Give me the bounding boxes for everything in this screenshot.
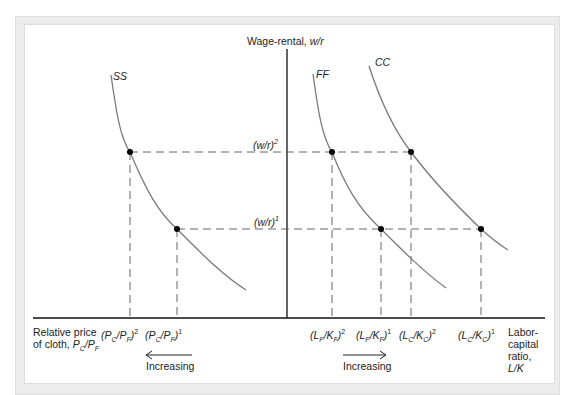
x-left-label-text: of cloth,	[33, 338, 73, 350]
x-right-label: Labor- capital ratio, L/K	[508, 326, 538, 374]
point-ss-w2	[127, 149, 133, 155]
x-right-label-line4: L/K	[508, 362, 538, 374]
y-axis-title: Wage-rental, w/r	[247, 35, 324, 47]
ff-label: FF	[316, 68, 329, 80]
x-left-sub-f: F	[95, 345, 99, 352]
tick-text: /K	[472, 329, 482, 341]
right-increasing-label: Increasing	[343, 360, 391, 372]
tick-text: (L	[458, 329, 467, 341]
tick-text: (L	[310, 329, 319, 341]
equilibrium-points	[127, 149, 484, 232]
x-right-label-line1: Labor-	[508, 326, 538, 338]
y-axis-title-text: Wage-rental,	[247, 35, 310, 47]
w2-label-text: (w/r)	[253, 139, 274, 151]
arrows	[146, 351, 386, 359]
tick-text: (P	[101, 329, 112, 341]
x-left-var-p2: P	[88, 338, 95, 350]
point-cc-w1	[478, 226, 484, 232]
tick-sup: 2	[432, 328, 436, 335]
x-right-label-line2: capital	[508, 338, 538, 350]
w2-label-sup: 2	[274, 138, 278, 145]
ss-curve	[111, 75, 246, 290]
w1-label-text: (w/r)	[254, 216, 275, 228]
tick-text: /K	[324, 329, 334, 341]
w1-label-sup: 1	[275, 215, 279, 222]
x-right-label-line3: ratio,	[508, 350, 538, 362]
point-ff-w2	[329, 149, 335, 155]
tick-lckc1: (LC/KC)1	[458, 326, 495, 346]
tick-text: (L	[399, 329, 408, 341]
point-ff-w1	[378, 226, 384, 232]
tick-text: /K	[413, 329, 423, 341]
tick-sup: 2	[134, 328, 138, 335]
y-axis-title-var: w/r	[310, 35, 324, 47]
tick-sup: 1	[387, 328, 391, 335]
point-cc-w2	[408, 149, 414, 155]
ss-label: SS	[113, 70, 127, 82]
tick-pcpf1: (PC/PF)1	[145, 326, 182, 346]
tick-text: (L	[356, 329, 365, 341]
tick-text: /P	[117, 329, 127, 341]
tick-sup: 2	[341, 328, 345, 335]
left-increasing-label: Increasing	[146, 360, 194, 372]
w2-label: (w/r)2	[253, 136, 278, 151]
x-left-label-line1: Relative price	[33, 326, 99, 338]
cc-label: CC	[375, 56, 390, 68]
tick-text: /P	[161, 329, 171, 341]
w1-label: (w/r)1	[254, 213, 279, 228]
tick-sup: 1	[491, 328, 495, 335]
tick-pcpf2: (PC/PF)2	[101, 326, 138, 346]
point-ss-w1	[174, 226, 180, 232]
tick-text: /K	[370, 329, 380, 341]
ff-curve	[313, 74, 446, 288]
tick-sup: 1	[178, 328, 182, 335]
tick-lckc2: (LC/KC)2	[399, 326, 436, 346]
x-left-var-p1: P	[73, 338, 80, 350]
x-left-label: Relative price of cloth, PC/PF	[33, 326, 99, 355]
tick-lfkf2: (LF/KF)2	[310, 326, 345, 346]
x-left-label-line2: of cloth, PC/PF	[33, 338, 99, 355]
cc-curve	[369, 66, 508, 250]
tick-lfkf1: (LF/KF)1	[356, 326, 391, 346]
tick-text: (P	[145, 329, 156, 341]
